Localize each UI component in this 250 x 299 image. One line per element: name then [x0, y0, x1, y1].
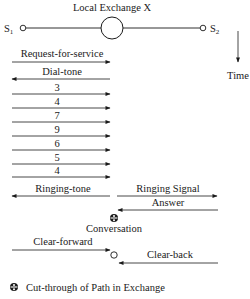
- legend-label: Cut-through of Path in Exchange: [26, 282, 165, 293]
- station-s1-node: [20, 25, 26, 31]
- station-s2-node: [200, 25, 206, 31]
- digit-label: 6: [54, 138, 59, 149]
- digit-label: 4: [54, 96, 60, 107]
- exchange-node-icon: [101, 17, 123, 39]
- digit-label: 3: [54, 82, 59, 93]
- signal-label: Ringing-tone: [35, 183, 91, 194]
- signal-label: Clear-forward: [33, 236, 93, 247]
- time-label: Time: [227, 70, 249, 81]
- signal-label: Answer: [152, 197, 185, 208]
- signal-label: Dial-tone: [42, 66, 82, 77]
- digit-label: 5: [54, 152, 59, 163]
- station-s1-label: S1: [4, 23, 14, 36]
- cut-through-icon: [110, 214, 118, 222]
- conversation-label: Conversation: [86, 223, 143, 234]
- digit-label: 4: [54, 165, 60, 176]
- release-node-icon: [111, 252, 117, 258]
- station-s2-label: S2: [210, 23, 220, 36]
- signal-label: Clear-back: [147, 249, 194, 260]
- legend: Cut-through of Path in Exchange: [10, 282, 165, 293]
- cut-through-icon: [10, 283, 18, 291]
- digit-label: 9: [54, 124, 59, 135]
- signal-label: Request-for-service: [21, 48, 104, 59]
- signal-label: Ringing Signal: [136, 183, 199, 194]
- signaling-sequence-diagram: Local Exchange X S1 S2 Time Request-for-…: [0, 0, 250, 299]
- exchange-title: Local Exchange X: [73, 2, 152, 13]
- network-line: [20, 17, 206, 39]
- digit-label: 7: [54, 110, 59, 121]
